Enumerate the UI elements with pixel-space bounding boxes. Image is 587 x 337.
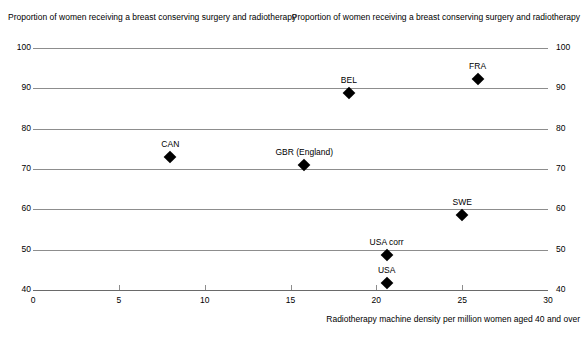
- y-tick-label-right-40: 40: [556, 285, 587, 294]
- y-tick-label-left-80: 80: [0, 124, 31, 133]
- x-tick-10: [205, 285, 206, 290]
- y-tick-label-right-90: 90: [556, 83, 587, 92]
- data-point-marker-usa[interactable]: [380, 277, 393, 290]
- x-axis-title: Radiotherapy machine density per million…: [326, 314, 580, 325]
- x-tick-label-10: 10: [190, 296, 220, 305]
- data-point-label-gbrengland: GBR (England): [275, 148, 333, 157]
- data-point-marker-usacorr[interactable]: [380, 249, 393, 262]
- y-tick-label-right-100: 100: [556, 43, 587, 52]
- x-tick-label-20: 20: [361, 296, 391, 305]
- y-tick-label-left-100: 100: [0, 43, 31, 52]
- x-tick-label-0: 0: [18, 296, 48, 305]
- y-tick-label-right-70: 70: [556, 164, 587, 173]
- y-axis-title-left: Proportion of women receiving a breast c…: [8, 12, 296, 23]
- y-tick-label-left-50: 50: [0, 245, 31, 254]
- x-tick-15: [291, 285, 292, 290]
- data-point-marker-can[interactable]: [164, 151, 177, 164]
- x-tick-25: [462, 285, 463, 290]
- x-tick-5: [119, 285, 120, 290]
- gridline-y-40: [33, 290, 548, 291]
- x-tick-label-5: 5: [104, 296, 134, 305]
- x-tick-label-25: 25: [447, 296, 477, 305]
- y-tick-label-left-60: 60: [0, 204, 31, 213]
- y-tick-label-left-70: 70: [0, 164, 31, 173]
- data-point-marker-fra[interactable]: [471, 73, 484, 86]
- y-axis-title-right: Proportion of women receiving a breast c…: [292, 12, 580, 23]
- gridline-y-70: [33, 169, 548, 170]
- data-point-label-can: CAN: [161, 140, 179, 149]
- y-tick-label-left-90: 90: [0, 83, 31, 92]
- y-tick-label-right-60: 60: [556, 204, 587, 213]
- y-tick-label-right-80: 80: [556, 124, 587, 133]
- x-tick-20: [376, 285, 377, 290]
- data-point-label-swe: SWE: [452, 198, 471, 207]
- gridline-y-100: [33, 48, 548, 49]
- data-point-label-bel: BEL: [341, 76, 357, 85]
- y-tick-label-left-40: 40: [0, 285, 31, 294]
- data-point-label-usacorr: USA corr: [370, 238, 404, 247]
- gridline-y-50: [33, 250, 548, 251]
- x-tick-label-15: 15: [276, 296, 306, 305]
- x-tick-label-30: 30: [533, 296, 563, 305]
- gridline-y-90: [33, 88, 548, 89]
- scatter-chart: Proportion of women receiving a breast c…: [0, 0, 587, 337]
- y-tick-label-right-50: 50: [556, 245, 587, 254]
- gridline-y-60: [33, 209, 548, 210]
- data-point-label-fra: FRA: [469, 62, 486, 71]
- data-point-label-usa: USA: [378, 266, 395, 275]
- gridline-y-80: [33, 129, 548, 130]
